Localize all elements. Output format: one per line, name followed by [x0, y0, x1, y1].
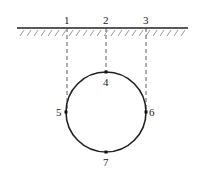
projection-lines	[67, 28, 146, 112]
label-point-6: 6	[149, 106, 155, 118]
tunnel-diagram: 1 2 3 4 5 6 7	[0, 0, 198, 172]
ground-hatching	[20, 30, 185, 36]
label-point-2: 2	[103, 14, 109, 26]
label-point-7: 7	[103, 156, 109, 168]
label-point-5: 5	[56, 106, 62, 118]
label-point-1: 1	[64, 14, 70, 26]
label-point-4: 4	[103, 76, 109, 88]
label-point-3: 3	[143, 14, 149, 26]
